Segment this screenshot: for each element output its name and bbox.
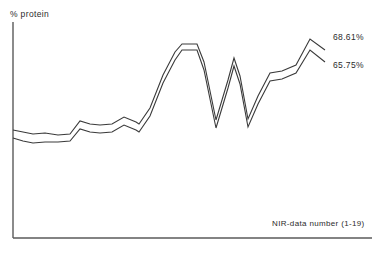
chart-canvas <box>0 0 382 253</box>
series-line-upper <box>13 39 325 135</box>
y-axis-title: % protein <box>10 9 49 19</box>
lower-end-label: 65.75% <box>333 60 364 70</box>
protein-nir-line-chart: % protein NIR-data number (1-19) 68.61% … <box>0 0 382 253</box>
x-axis-title: NIR-data number (1-19) <box>272 219 365 228</box>
upper-end-label: 68.61% <box>333 32 364 42</box>
